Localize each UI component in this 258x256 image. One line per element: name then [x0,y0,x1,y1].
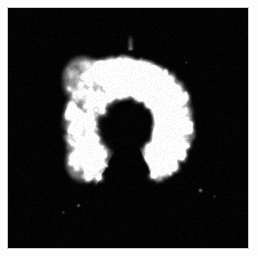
image-frame [7,7,249,249]
image-viewport: Fluorescence micrograph [0,0,258,256]
fluorescence-micrograph-image [8,8,248,248]
micrograph-canvas-area [8,8,248,248]
